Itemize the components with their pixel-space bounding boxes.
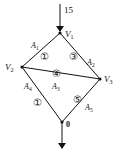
edge-a2-label: A2 — [86, 58, 95, 68]
node-o-label: 0 — [66, 120, 70, 129]
edge-a5-label: A5 — [84, 103, 93, 113]
node-v2-dot — [20, 65, 23, 68]
edge-a1-label: A1 — [30, 41, 39, 51]
node-o-dot — [60, 120, 63, 123]
edge-a2-circled-number: ③ — [69, 51, 78, 62]
edge-a1-circled-number: ① — [40, 51, 49, 62]
network-diagram: 15 V1 V2 V3 0 A1 A2 A3 A4 A5 ① ③ ④ ① ⑤ — [0, 0, 120, 154]
input-flow-value: 15 — [64, 5, 74, 15]
edge-a4-label: A4 — [23, 82, 32, 92]
edge-a3-circled-number: ④ — [52, 68, 61, 79]
edge-a5-circled-number: ⑤ — [73, 94, 82, 105]
edge-a3-label: A3 — [51, 82, 60, 92]
edge-a4-circled-number: ① — [33, 97, 42, 108]
node-v2-label: V2 — [5, 62, 14, 73]
edge-a2 — [60, 33, 100, 79]
edge-a3 — [22, 67, 100, 79]
node-v3-label: V3 — [104, 74, 113, 85]
node-v1-dot — [58, 31, 61, 34]
node-v3-dot — [98, 77, 101, 80]
node-v1-label: V1 — [65, 29, 74, 40]
